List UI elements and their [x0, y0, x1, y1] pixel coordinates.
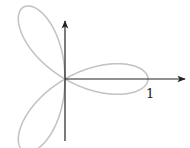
x-tick-label-one: 1 — [146, 87, 154, 100]
rose-curve-diagram — [0, 0, 190, 148]
rose-curve — [18, 6, 148, 148]
